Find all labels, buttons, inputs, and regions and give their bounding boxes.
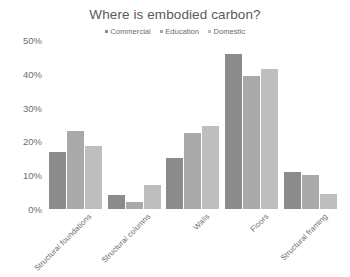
y-axis-tick-label: 30% bbox=[23, 102, 42, 113]
y-axis-tick-label: 40% bbox=[23, 68, 42, 79]
x-axis-tick-label: Structural columns bbox=[100, 212, 153, 265]
x-axis-tick-label: Structural framing bbox=[278, 212, 329, 263]
bar[interactable] bbox=[126, 202, 143, 209]
legend-swatch-icon bbox=[208, 30, 211, 33]
y-axis-tick-label: 0% bbox=[28, 204, 42, 215]
bar[interactable] bbox=[320, 194, 337, 209]
bar-group bbox=[105, 40, 164, 209]
chart-legend: CommercialEducationDomestic bbox=[0, 28, 350, 36]
bar[interactable] bbox=[184, 133, 201, 209]
y-axis-tick-label: 20% bbox=[23, 136, 42, 147]
bar-group bbox=[46, 40, 105, 209]
bar[interactable] bbox=[166, 158, 183, 209]
y-axis-tick-label: 10% bbox=[23, 170, 42, 181]
legend-label: Commercial bbox=[110, 28, 151, 36]
bar[interactable] bbox=[302, 175, 319, 209]
legend-item[interactable]: Commercial bbox=[105, 28, 151, 36]
bar[interactable] bbox=[261, 69, 278, 209]
bar[interactable] bbox=[85, 146, 102, 209]
y-axis-tick-label: 50% bbox=[23, 35, 42, 46]
x-axis-tick-label: Walls bbox=[192, 212, 212, 232]
chart-title: Where is embodied carbon? bbox=[0, 7, 350, 22]
plot-area bbox=[46, 40, 340, 209]
legend-swatch-icon bbox=[105, 30, 108, 33]
bar-group bbox=[222, 40, 281, 209]
bar[interactable] bbox=[108, 195, 125, 209]
bar[interactable] bbox=[144, 185, 161, 209]
x-axis: Structural foundationsStructural columns… bbox=[46, 209, 340, 277]
y-axis: 50%40%30%20%10%0% bbox=[0, 40, 42, 209]
bar[interactable] bbox=[284, 172, 301, 209]
x-axis-tick-label: Floors bbox=[248, 212, 270, 234]
bar[interactable] bbox=[67, 131, 84, 209]
bar[interactable] bbox=[202, 126, 219, 209]
bar-group bbox=[164, 40, 223, 209]
bar[interactable] bbox=[243, 76, 260, 210]
legend-label: Domestic bbox=[214, 28, 246, 36]
legend-item[interactable]: Domestic bbox=[208, 28, 245, 36]
bar-chart: Where is embodied carbon? CommercialEduc… bbox=[0, 0, 350, 277]
bar[interactable] bbox=[225, 54, 242, 209]
x-axis-tick-label: Structural foundations bbox=[33, 212, 94, 273]
legend-label: Education bbox=[165, 28, 199, 36]
bar[interactable] bbox=[49, 152, 66, 209]
legend-swatch-icon bbox=[160, 30, 163, 33]
bar-group bbox=[281, 40, 340, 209]
legend-item[interactable]: Education bbox=[160, 28, 199, 36]
